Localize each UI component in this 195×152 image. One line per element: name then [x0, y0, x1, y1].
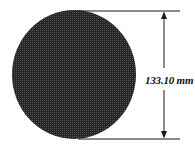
filled-circle — [12, 10, 136, 139]
down-arrow-icon — [161, 131, 167, 139]
diameter-label: 133.10 mm — [145, 74, 195, 86]
up-arrow-icon — [161, 12, 167, 20]
